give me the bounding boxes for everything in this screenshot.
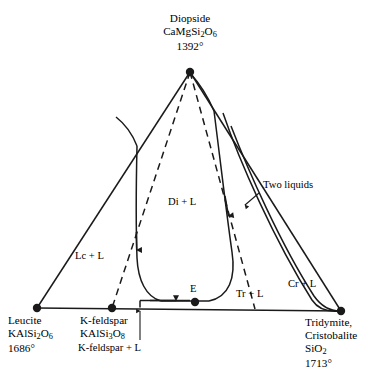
boundary-leucite-top-tie <box>116 117 137 146</box>
silica-temperature: 1713° <box>305 357 357 370</box>
join-diopside-silica <box>190 72 255 309</box>
phase-diagram-figure: Diopside CaMgSi2O6 1392° Leucite KAlSi2O… <box>0 0 379 379</box>
join-diopside-kfeldspar <box>112 72 190 308</box>
corner-label-k-feldspar: K-feldspar KAlSi3O8 <box>80 314 128 342</box>
k-feldspar-formula: KAlSi3O8 <box>80 327 128 342</box>
corner-label-leucite: Leucite KAlSi2O6 1686° <box>8 314 53 355</box>
two-liquids-leader <box>245 193 259 205</box>
edge-left <box>37 72 190 308</box>
leucite-temperature: 1686° <box>8 342 53 355</box>
eutectic-label: E <box>190 283 196 296</box>
field-label-cr-l: Cr + L <box>288 278 316 291</box>
annotation-k-feldspar-l: K-feldspar + L <box>78 342 141 355</box>
vertex-dot-leucite <box>33 304 41 312</box>
silica-formula: SiO2 <box>305 342 357 357</box>
silica-name-line2: Cristobalite <box>305 329 357 342</box>
silica-name-line1: Tridymite, <box>305 316 357 329</box>
diopside-name: Diopside <box>140 12 240 25</box>
join-lines-dashed <box>112 72 255 309</box>
diopside-temperature: 1392° <box>140 40 240 53</box>
annotation-two-liquids: Two liquids <box>263 179 313 192</box>
corner-label-silica: Tridymite, Cristobalite SiO2 1713° <box>305 316 357 370</box>
field-label-lc-l: Lc + L <box>75 250 104 263</box>
vertex-dot-k-feldspar <box>108 304 116 312</box>
corner-label-diopside: Diopside CaMgSi2O6 1392° <box>140 12 240 53</box>
leucite-formula: KAlSi2O6 <box>8 327 53 342</box>
diopside-formula: CaMgSi2O6 <box>140 25 240 40</box>
leucite-name: Leucite <box>8 314 53 327</box>
vertex-dot-diopside <box>186 68 194 76</box>
field-label-di-l: Di + L <box>168 196 196 209</box>
boundary-diopside-tridymite <box>209 111 233 301</box>
vertex-dot-silica <box>337 307 345 315</box>
triangle-edges <box>37 72 341 311</box>
edge-base <box>37 308 341 311</box>
field-label-tr-l: Tr + L <box>236 288 263 301</box>
eutectic-point-dot <box>191 298 199 306</box>
k-feldspar-name: K-feldspar <box>80 314 128 327</box>
